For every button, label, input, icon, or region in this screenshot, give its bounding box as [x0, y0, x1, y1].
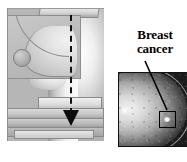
cancer-roi-box — [159, 111, 176, 128]
mammogram-image — [118, 72, 187, 147]
breast-cancer-label-line-1: Breast — [124, 28, 186, 42]
breast-cancer-label-line-2: cancer — [124, 42, 186, 56]
breast-cancer-label: Breast cancer — [124, 28, 186, 55]
mammography-diagram-panel — [7, 8, 104, 141]
figure-root: Breast cancer — [0, 0, 187, 162]
beam-direction-arrow-icon — [63, 110, 79, 126]
mammogram-nipple-highlight — [120, 107, 129, 114]
xray-beam-axis-dashed-line — [70, 15, 72, 114]
detector-plate-base — [14, 130, 94, 139]
mammogram-film-grain — [119, 73, 187, 146]
lesion-circle-icon — [13, 49, 31, 67]
